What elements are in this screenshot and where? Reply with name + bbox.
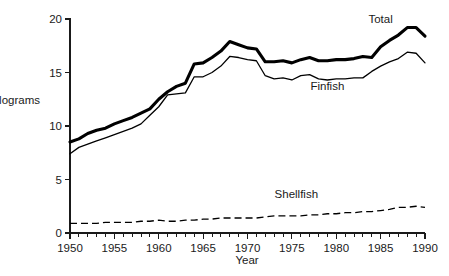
x-tick-label: 1960: [146, 242, 172, 254]
x-tick-label: 1965: [190, 242, 216, 254]
y-axis-tick-labels: 05101520: [49, 13, 62, 239]
series-annotations: TotalFinfishShellfish: [275, 13, 393, 199]
series-lines: [70, 28, 425, 224]
y-axis-ticks: [65, 19, 70, 233]
line-chart-svg: 05101520 1950195519601965197019751980198…: [0, 0, 449, 276]
series-annotation-total: Total: [368, 13, 392, 25]
x-tick-label: 1985: [368, 242, 394, 254]
series-line-total: [70, 28, 425, 142]
y-tick-label: 15: [49, 67, 62, 79]
axes: [70, 18, 425, 233]
x-axis-ticks: [70, 233, 425, 239]
y-axis-title: Kilograms: [0, 94, 40, 106]
x-tick-label: 1955: [102, 242, 128, 254]
y-tick-label: 20: [49, 13, 62, 25]
x-tick-label: 1990: [412, 242, 438, 254]
y-tick-label: 0: [56, 227, 62, 239]
x-axis-tick-labels: 195019551960196519701975198019851990: [57, 242, 438, 254]
series-line-shellfish: [70, 206, 425, 223]
x-axis-title: Year: [235, 254, 258, 266]
x-tick-label: 1950: [57, 242, 83, 254]
series-annotation-finfish: Finfish: [310, 80, 344, 92]
x-tick-label: 1970: [235, 242, 261, 254]
x-tick-label: 1975: [279, 242, 305, 254]
y-tick-label: 10: [49, 120, 62, 132]
series-annotation-shellfish: Shellfish: [275, 188, 318, 200]
x-tick-label: 1980: [323, 242, 349, 254]
y-tick-label: 5: [56, 174, 62, 186]
chart-container: 05101520 1950195519601965197019751980198…: [0, 0, 449, 276]
series-line-finfish: [70, 52, 425, 154]
